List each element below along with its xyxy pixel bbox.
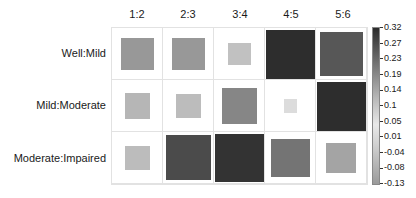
heatmap-cell	[112, 80, 163, 132]
col-label-1-2: 1:2	[111, 8, 163, 20]
colorbar-tick: -0.04	[380, 147, 405, 157]
value-square	[125, 93, 151, 119]
col-label-2-3: 2:3	[162, 8, 214, 20]
col-label-4-5: 4:5	[265, 8, 317, 20]
colorbar-tick: 0.19	[380, 69, 402, 79]
colorbar-tick: -0.13	[380, 178, 405, 188]
colorbar-tick: 0.23	[380, 53, 402, 63]
value-square	[228, 43, 251, 66]
colorbar-tick: 0.1	[380, 100, 397, 110]
row-label-mild-moderate: Mild:Moderate	[36, 99, 106, 111]
heatmap-cell	[265, 80, 316, 132]
value-square	[172, 38, 204, 70]
value-square	[121, 38, 153, 70]
heatmap-cell	[265, 28, 316, 80]
col-label-5-6: 5:6	[317, 8, 369, 20]
heatmap-cell	[112, 132, 163, 184]
colorbar	[372, 27, 380, 185]
heatmap-cell	[214, 132, 265, 184]
heatmap-cell	[214, 28, 265, 80]
value-square	[326, 143, 356, 173]
value-square	[125, 146, 150, 171]
row-label-moderate-impaired: Moderate:Impaired	[14, 152, 106, 164]
colorbar-tick: 0.05	[380, 116, 402, 126]
value-square	[166, 135, 211, 180]
value-square	[271, 139, 310, 178]
value-square	[317, 82, 366, 131]
heatmap-cell	[316, 80, 367, 132]
value-square	[215, 134, 263, 182]
heatmap-cell	[316, 132, 367, 184]
value-square	[266, 30, 315, 79]
heatmap-grid	[111, 27, 368, 185]
heatmap-cell	[163, 132, 214, 184]
colorbar-tick: 0.01	[380, 131, 402, 141]
value-square	[222, 88, 258, 124]
colorbar-tick: 0.32	[380, 22, 402, 32]
heatmap-cell	[163, 28, 214, 80]
heatmap-cell	[112, 28, 163, 80]
value-square	[284, 99, 298, 113]
value-square	[176, 94, 201, 119]
colorbar-tick: -0.08	[380, 162, 405, 172]
col-label-3-4: 3:4	[214, 8, 266, 20]
colorbar-tick: 0.27	[380, 38, 402, 48]
heatmap-cell	[265, 132, 316, 184]
heatmap-cell	[214, 80, 265, 132]
heatmap-cell	[316, 28, 367, 80]
heatmap-cell	[163, 80, 214, 132]
row-label-well-mild: Well:Mild	[62, 47, 106, 59]
value-square	[320, 32, 363, 75]
colorbar-tick: 0.14	[380, 84, 402, 94]
